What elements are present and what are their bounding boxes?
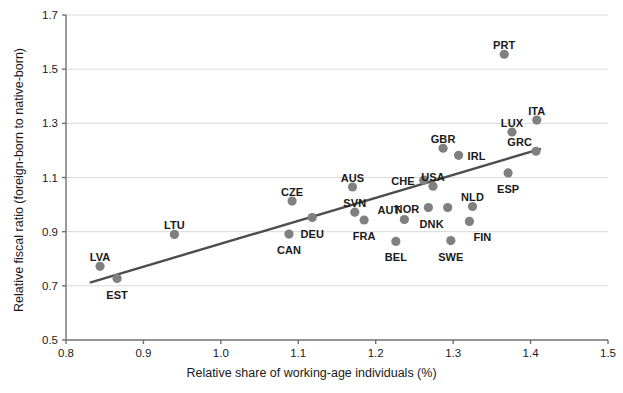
data-point-marker <box>424 203 433 212</box>
data-point-label: CHE <box>391 175 415 187</box>
data-point-marker <box>446 236 455 245</box>
x-tick-label: 1.4 <box>523 347 539 359</box>
data-point-label: NLD <box>461 191 484 203</box>
data-point-marker <box>391 237 400 246</box>
data-point-marker <box>454 151 463 160</box>
x-tick-label: 1.0 <box>213 347 229 359</box>
data-point-label: NOR <box>395 203 420 215</box>
data-point-label: LUX <box>501 117 523 129</box>
data-points <box>95 50 541 283</box>
data-point-marker <box>400 215 409 224</box>
data-point-label: ESP <box>497 183 519 195</box>
data-point-label: AUS <box>341 172 365 184</box>
data-point-marker <box>308 213 317 222</box>
x-tick-label: 0.9 <box>135 347 151 359</box>
data-point-marker <box>113 274 122 283</box>
data-point-label: SVN <box>343 197 366 209</box>
gridlines <box>66 15 608 286</box>
x-tick-label: 1.3 <box>445 347 461 359</box>
scatter-chart-figure: 0.80.91.01.11.21.31.41.5 0.50.70.91.11.3… <box>0 0 623 393</box>
data-point-label: DEU <box>300 228 324 240</box>
plot-area <box>0 0 623 393</box>
tick-marks <box>62 15 608 344</box>
data-point-marker <box>531 147 540 156</box>
data-point-marker <box>284 230 293 239</box>
data-point-label: FRA <box>353 230 376 242</box>
data-point-label: EST <box>106 289 128 301</box>
data-point-label: DNK <box>420 218 444 230</box>
data-point-label: GRC <box>507 136 532 148</box>
data-point-label: LTU <box>164 219 185 231</box>
data-point-label: FIN <box>473 231 491 243</box>
data-point-label: USA <box>421 171 445 183</box>
x-tick-label: 1.1 <box>290 347 306 359</box>
data-point-label: IRL <box>468 150 486 162</box>
x-tick-label: 0.8 <box>58 347 74 359</box>
data-point-label: BEL <box>385 251 407 263</box>
data-point-label: PRT <box>493 39 515 51</box>
data-point-label: SWE <box>438 251 463 263</box>
data-point-label: CAN <box>277 244 301 256</box>
x-tick-label: 1.2 <box>368 347 384 359</box>
data-point-marker <box>443 203 452 212</box>
data-point-label: LVA <box>90 251 111 263</box>
y-axis-title: Relative fiscal ratio (foreign-born to n… <box>12 15 28 345</box>
data-point-label: CZE <box>281 186 303 198</box>
data-point-label: ITA <box>528 105 545 117</box>
x-tick-label: 1.5 <box>600 347 616 359</box>
data-point-marker <box>360 215 369 224</box>
x-axis-title: Relative share of working-age individual… <box>0 366 623 380</box>
data-point-label: GBR <box>431 133 456 145</box>
data-point-marker <box>504 168 513 177</box>
data-point-marker <box>465 217 474 226</box>
